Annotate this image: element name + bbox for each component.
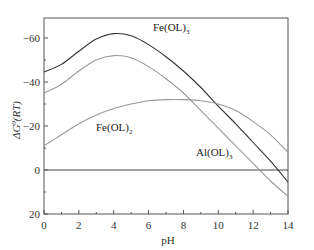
curve-fe-ol-2 [44, 99, 288, 152]
y-tick-label: 0 [35, 164, 41, 176]
x-tick-label: 12 [248, 219, 259, 231]
label-al-ol-3: Al(OL)3 [196, 146, 233, 161]
y-tick-label: −40 [23, 76, 41, 88]
y-tick-label: −20 [23, 120, 41, 132]
x-tick-label: 14 [283, 219, 295, 231]
label-fe-ol-3: Fe(OL)3 [153, 21, 190, 36]
gibbs-energy-chart: −60−40−20020 02468101214 Fe(OL)3 Fe(OL)2… [0, 0, 314, 250]
y-axis-ticks: −60−40−20020 [23, 32, 48, 220]
x-tick-label: 6 [146, 219, 152, 231]
y-tick-label: 20 [29, 208, 41, 220]
curves [44, 33, 288, 196]
plot-frame [44, 18, 288, 214]
x-axis-title: pH [161, 234, 175, 246]
curve-al-ol-3 [44, 56, 288, 197]
x-tick-label: 8 [181, 219, 187, 231]
curve-fe-ol-3 [44, 33, 288, 182]
x-tick-label: 2 [76, 219, 82, 231]
x-tick-label: 4 [111, 219, 117, 231]
label-fe-ol-2: Fe(OL)2 [96, 121, 133, 136]
x-axis-ticks: 02468101214 [41, 210, 294, 231]
y-axis-title: ΔG0(RT) [10, 101, 23, 140]
x-tick-label: 10 [213, 219, 225, 231]
x-tick-label: 0 [41, 219, 47, 231]
y-tick-label: −60 [23, 32, 41, 44]
